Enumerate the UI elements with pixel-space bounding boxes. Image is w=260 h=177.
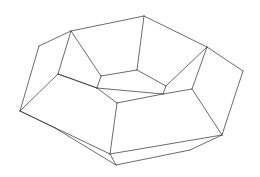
edge-TL_outer-T_outer	[71, 16, 144, 31]
edge-T_outer-TR_outer	[144, 16, 207, 47]
edge-R_mid-inner_R	[163, 89, 192, 94]
edge-inner_TL-inner_top	[101, 70, 137, 76]
edge-L_mid-TL_outer	[58, 31, 71, 74]
edge-inner_TL-inner_L	[97, 76, 101, 88]
edge-BR_low-R_low	[190, 135, 222, 150]
edge-inner_TR-inner_R	[163, 86, 166, 94]
edge-inner_top-inner_TR	[137, 70, 166, 86]
edge-inner_front-inner_R	[117, 94, 163, 103]
edge-L_far-BL_low	[20, 111, 55, 128]
edge-inner_L-inner_front	[97, 88, 117, 103]
edge-inner_L-L_mid	[58, 74, 97, 88]
edge-TL_outer-inner_TL	[71, 31, 101, 76]
edge-R_far-R_low	[222, 71, 243, 135]
edge-TL_outer-L_top	[39, 31, 71, 46]
edge-B_low-BR_low	[116, 150, 190, 165]
octagonal-ring-drawing	[0, 0, 260, 177]
edge-B_front-R_low	[110, 135, 222, 154]
edge-BL_low-B_low	[55, 128, 116, 165]
edge-TR_outer-R_far	[207, 47, 243, 71]
edge-R_mid-R_low	[192, 89, 222, 135]
edge-TR_outer-inner_TR	[166, 47, 207, 86]
edge-inner_front-B_front	[110, 103, 117, 154]
wireframe-figure	[0, 0, 260, 177]
edge-TR_outer-R_mid	[192, 47, 207, 89]
edge-T_outer-inner_top	[137, 16, 144, 70]
edge-inner_L-inner_R	[97, 88, 163, 94]
